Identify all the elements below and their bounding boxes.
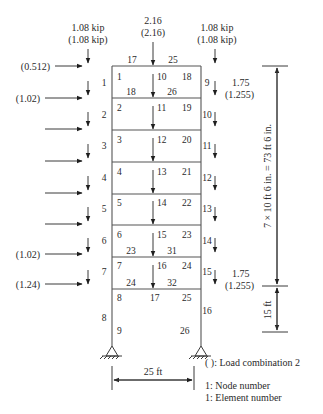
lateral-load-7: (1.24) [16, 279, 40, 291]
svg-text:23: 23 [126, 246, 136, 256]
svg-text:17: 17 [150, 293, 160, 303]
svg-text:19: 19 [182, 103, 192, 113]
svg-text:18: 18 [182, 72, 192, 82]
svg-text:16: 16 [157, 261, 167, 271]
legend-element-number: 1: Element number [205, 392, 282, 403]
svg-text:2: 2 [117, 103, 122, 113]
svg-text:4: 4 [102, 173, 107, 183]
svg-text:21: 21 [182, 167, 192, 177]
right-load-top-value: 1.75 [232, 77, 250, 88]
bay-width-dimension: 25 ft [144, 366, 163, 377]
frame-diagram: 1.08 kip (1.08 kip) 2.16 (2.16) 1.08 kip… [0, 0, 323, 414]
lateral-load-1: (0.512) [21, 61, 50, 73]
svg-text:31: 31 [167, 246, 177, 256]
svg-text:15: 15 [157, 230, 167, 240]
svg-text:6: 6 [102, 236, 107, 246]
legend-node-number: 1: Node number [205, 380, 271, 391]
upper-height-dimension: 7 × 10 ft 6 in. = 73 ft 6 in. [262, 124, 273, 228]
svg-text:3: 3 [102, 141, 107, 151]
svg-text:14: 14 [202, 236, 212, 246]
svg-text:32: 32 [167, 278, 177, 288]
svg-text:4: 4 [117, 167, 122, 177]
top-load-center-value: 2.16 [144, 15, 162, 26]
svg-text:18: 18 [126, 87, 136, 97]
svg-text:10: 10 [157, 72, 167, 82]
right-load-top-combo2: (1.255) [225, 89, 254, 101]
top-load-right-combo2: (1.08 kip) [197, 34, 236, 46]
svg-text:26: 26 [167, 87, 177, 97]
svg-text:9: 9 [117, 326, 122, 336]
legend: ( ): Load combination 2 1: Node number 1… [205, 357, 300, 403]
svg-text:23: 23 [182, 230, 192, 240]
svg-text:1: 1 [117, 72, 122, 82]
left-node-numbers: 1 2 3 4 5 6 7 8 9 [117, 72, 122, 336]
svg-text:25: 25 [168, 55, 178, 65]
svg-text:16: 16 [202, 306, 212, 316]
svg-text:1: 1 [102, 78, 107, 88]
svg-text:13: 13 [157, 167, 167, 177]
svg-text:22: 22 [182, 198, 192, 208]
pin-support-left [100, 346, 122, 359]
svg-text:2: 2 [102, 110, 107, 120]
top-load-left-value: 1.08 kip [72, 22, 105, 33]
svg-text:13: 13 [202, 204, 212, 214]
svg-text:8: 8 [102, 313, 107, 323]
svg-text:11: 11 [202, 141, 211, 151]
right-column-element-numbers: 9 10 11 12 13 14 15 16 [202, 78, 212, 316]
svg-text:6: 6 [117, 230, 122, 240]
svg-text:24: 24 [126, 278, 136, 288]
svg-text:7: 7 [102, 267, 107, 277]
svg-text:25: 25 [182, 293, 192, 303]
top-load-right-value: 1.08 kip [201, 22, 234, 33]
svg-text:14: 14 [157, 198, 167, 208]
svg-text:12: 12 [202, 173, 212, 183]
svg-text:3: 3 [117, 135, 122, 145]
svg-text:20: 20 [182, 135, 192, 145]
svg-text:10: 10 [202, 110, 212, 120]
svg-text:9: 9 [205, 78, 210, 88]
svg-text:26: 26 [180, 326, 190, 336]
right-load-bottom-value: 1.75 [232, 268, 250, 279]
svg-text:5: 5 [117, 198, 122, 208]
lateral-load-2: (1.02) [16, 93, 40, 105]
beam-element-numbers: 17 25 18 26 23 31 24 32 [126, 55, 178, 288]
svg-text:7: 7 [117, 261, 122, 271]
left-column-element-numbers: 1 2 3 4 5 6 7 8 [102, 78, 107, 323]
svg-text:11: 11 [157, 103, 166, 113]
lateral-load-arrows [45, 66, 82, 284]
right-node-numbers: 18 19 20 21 22 23 24 25 26 [180, 72, 192, 336]
svg-text:5: 5 [102, 204, 107, 214]
lateral-load-6: (1.02) [16, 249, 40, 261]
right-load-bottom-combo2: (1.255) [225, 280, 254, 292]
top-load-left-combo2: (1.08 kip) [68, 34, 107, 46]
svg-text:8: 8 [117, 293, 122, 303]
legend-load-combination: ( ): Load combination 2 [205, 357, 300, 369]
svg-text:15: 15 [202, 267, 212, 277]
svg-text:24: 24 [182, 261, 192, 271]
svg-text:12: 12 [157, 135, 167, 145]
svg-text:17: 17 [127, 55, 137, 65]
lower-height-dimension: 15 ft [262, 300, 273, 319]
top-load-center-combo2: (2.16) [141, 27, 165, 39]
